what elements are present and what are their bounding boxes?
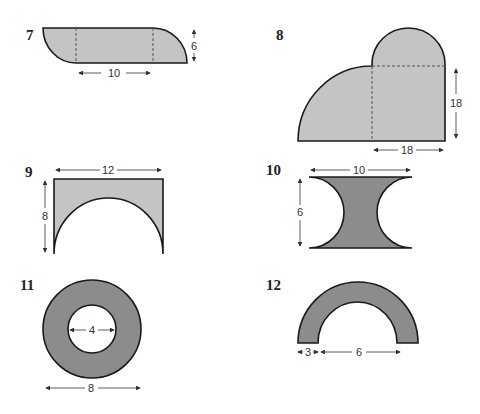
figure-10-height-label: 6 (297, 206, 303, 218)
figure-9-width-label: 12 (102, 164, 114, 176)
figure-10-number: 10 (266, 162, 281, 178)
figure-12-shape (298, 282, 418, 343)
figure-11: 11 4 8 (20, 277, 141, 394)
figure-9: 9 12 8 (25, 164, 163, 254)
figure-12-diameter-label: 6 (356, 346, 362, 358)
figure-8: 8 18 18 (276, 27, 462, 156)
figure-12-thickness-label: 3 (305, 346, 311, 358)
figure-7-number: 7 (26, 27, 34, 43)
figure-12: 12 3 6 (266, 277, 418, 358)
figure-8-height-label: 18 (450, 97, 462, 109)
figure-7: 7 10 6 (26, 27, 197, 79)
figure-11-inner-label: 4 (89, 324, 95, 336)
figure-10: 10 10 6 (266, 162, 412, 248)
figure-12-number: 12 (266, 277, 281, 293)
figure-11-number: 11 (20, 277, 34, 293)
figure-10-shape (309, 177, 412, 248)
figure-9-number: 9 (25, 164, 33, 180)
figure-8-number: 8 (276, 27, 284, 43)
figure-9-shape (54, 179, 163, 254)
figure-8-width-label: 18 (401, 144, 413, 156)
figure-8-shape (298, 28, 445, 141)
figure-10-width-label: 10 (353, 164, 365, 176)
figure-7-height-label: 6 (191, 40, 197, 52)
figure-9-height-label: 8 (42, 210, 48, 222)
figure-7-shape (43, 28, 187, 63)
figure-sheet: 7 10 6 8 18 18 9 12 8 10 (0, 0, 480, 414)
figure-11-outer-label: 8 (88, 382, 94, 394)
figure-7-width-label: 10 (108, 67, 120, 79)
